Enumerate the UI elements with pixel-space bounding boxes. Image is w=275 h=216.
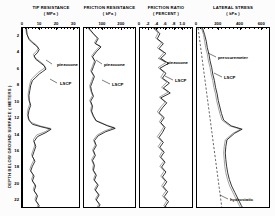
panel-title-tip-resistance: TIP RESISTANCE ( MPa ) — [22, 5, 80, 16]
x-minor-tick — [151, 27, 152, 29]
x-minor-tick — [249, 27, 250, 29]
tip-resistance-unit-text: ( MPa ) — [44, 11, 59, 16]
x-minor-tick — [157, 27, 158, 29]
x-minor-tick — [48, 27, 49, 29]
x-minor-tick — [54, 27, 55, 29]
x-tick-label: 0 — [195, 21, 197, 26]
x-minor-tick — [229, 27, 230, 29]
x-tick-label: 200 — [117, 21, 124, 26]
x-tick-label: 20 — [54, 21, 59, 26]
x-minor-tick — [160, 27, 161, 29]
x-minor-tick — [172, 27, 173, 29]
x-tick-label: 600 — [258, 21, 265, 26]
panel-friction-resistance — [83, 27, 136, 208]
series-piezocone — [88, 28, 115, 208]
x-minor-tick — [104, 27, 105, 29]
x-tick-label: .4 — [155, 21, 159, 26]
annotation-hydrostatic-p4: hydrostatic — [230, 197, 253, 202]
x-tick-label: 400 — [236, 21, 243, 26]
depth-tick-label: 16 — [10, 148, 19, 153]
x-minor-tick — [225, 27, 226, 29]
x-minor-tick — [169, 27, 170, 29]
x-minor-tick — [190, 27, 191, 29]
depth-tick-label: 2 — [10, 33, 19, 38]
friction-ratio-unit-text: ( PERCENT ) — [153, 11, 179, 16]
x-minor-tick — [118, 27, 119, 29]
x-minor-tick — [145, 27, 146, 29]
x-tick-label: 0 — [21, 21, 23, 26]
panel-title-friction-ratio: FRICTION RATIO ( PERCENT ) — [136, 5, 196, 16]
friction-resistance-title-text: FRICTION RESISTANCE — [84, 5, 135, 10]
lateral-stress-title-text: LATERAL STRESS — [213, 5, 253, 10]
x-tick-label: .8 — [172, 21, 176, 26]
x-tick-label: 1.0 — [179, 21, 185, 26]
x-tick-label: 100 — [98, 21, 105, 26]
x-minor-tick — [70, 27, 71, 29]
annotation-lscp-p4: LSCP — [224, 75, 235, 80]
x-minor-tick — [262, 27, 263, 29]
x-tick-mark — [139, 27, 140, 30]
x-minor-tick — [77, 27, 78, 29]
panel-title-friction-resistance: FRICTION RESISTANCE ( kPa ) — [78, 5, 141, 16]
x-minor-tick — [184, 27, 185, 29]
x-minor-tick — [130, 27, 131, 29]
friction-resistance-traces — [84, 28, 136, 208]
annotation-pressuremeter-p4: pressuremeter — [218, 55, 248, 60]
x-minor-tick — [112, 27, 113, 29]
x-minor-tick — [61, 27, 62, 29]
x-minor-tick — [237, 27, 238, 29]
x-minor-tick — [115, 27, 116, 29]
x-tick-mark — [39, 27, 40, 30]
x-minor-tick — [35, 27, 36, 29]
depth-tick-label: 18 — [10, 164, 19, 169]
x-minor-tick — [92, 27, 93, 29]
x-minor-tick — [254, 27, 255, 29]
x-minor-tick — [28, 27, 29, 29]
x-minor-tick — [245, 27, 246, 29]
annotation-piezocone-p3: piezocone — [167, 60, 188, 65]
depth-tick-label: 20 — [10, 181, 19, 186]
x-minor-tick — [133, 27, 134, 29]
depth-tick-label: 4 — [10, 49, 19, 54]
x-minor-tick — [98, 27, 99, 29]
x-minor-tick — [41, 27, 42, 29]
x-minor-tick — [266, 27, 267, 29]
x-minor-tick — [89, 27, 90, 29]
x-minor-tick — [200, 27, 201, 29]
x-minor-tick — [57, 27, 58, 29]
x-minor-tick — [32, 27, 33, 29]
x-minor-tick — [51, 27, 52, 29]
series-piezocone — [26, 28, 51, 208]
x-minor-tick — [148, 27, 149, 29]
x-minor-tick — [101, 27, 102, 29]
x-minor-tick — [181, 27, 182, 29]
x-minor-tick — [241, 27, 242, 29]
x-tick-mark — [218, 27, 219, 30]
x-tick-label: .2 — [146, 21, 150, 26]
x-minor-tick — [233, 27, 234, 29]
x-tick-mark — [22, 27, 23, 30]
panel-tip-resistance — [22, 27, 80, 208]
x-tick-label: .6 — [163, 21, 167, 26]
x-minor-tick — [212, 27, 213, 29]
depth-tick-label: 14 — [10, 132, 19, 137]
depth-tick-label: 6 — [10, 66, 19, 71]
annotation-lscp-p1: LSCP — [60, 81, 71, 86]
x-minor-tick — [86, 27, 87, 29]
friction-ratio-traces — [140, 28, 193, 208]
x-minor-tick — [64, 27, 65, 29]
x-minor-tick — [221, 27, 222, 29]
series-lscp — [89, 28, 115, 208]
x-minor-tick — [45, 27, 46, 29]
x-minor-tick — [142, 27, 143, 29]
x-minor-tick — [187, 27, 188, 29]
x-minor-tick — [178, 27, 179, 29]
annotation-lscp-p3: LSCP — [175, 78, 186, 83]
x-tick-label: 30 — [71, 21, 76, 26]
x-minor-tick — [124, 27, 125, 29]
x-minor-tick — [163, 27, 164, 29]
x-minor-tick — [166, 27, 167, 29]
x-tick-label: 0 — [138, 21, 140, 26]
x-minor-tick — [127, 27, 128, 29]
x-tick-label: 10 — [37, 21, 42, 26]
